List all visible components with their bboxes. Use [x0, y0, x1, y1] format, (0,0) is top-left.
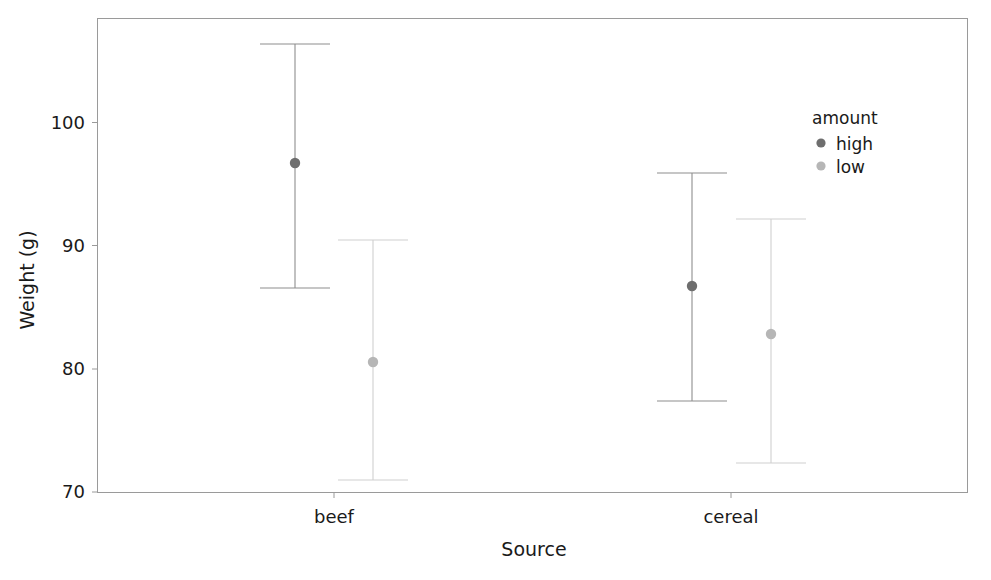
chart-container: 100 90 80 70 Weight (g) beef cereal Sour… — [0, 0, 991, 580]
x-tick-label-cereal: cereal — [703, 506, 758, 527]
legend-marker-low-icon — [816, 161, 825, 170]
legend: amount high low — [812, 108, 878, 177]
errorbar-cereal-low — [736, 219, 806, 463]
legend-item-high[interactable]: high — [816, 134, 873, 154]
data-point-beef-low[interactable] — [368, 357, 378, 367]
y-tick-label-70: 70 — [62, 481, 85, 502]
y-tick-label-90: 90 — [62, 235, 85, 256]
legend-item-low[interactable]: low — [816, 157, 865, 177]
series-high — [260, 44, 727, 401]
legend-marker-high-icon — [816, 138, 825, 147]
y-tick-label-80: 80 — [62, 358, 85, 379]
y-tick-label-100: 100 — [51, 112, 85, 133]
errorbar-cereal-high — [657, 173, 727, 401]
legend-label-high: high — [836, 134, 873, 154]
data-point-cereal-high[interactable] — [687, 281, 697, 291]
x-tick-label-beef: beef — [314, 506, 355, 527]
x-axis-title: Source — [501, 538, 566, 560]
errorbar-beef-low — [338, 240, 408, 480]
series-low — [338, 219, 806, 480]
legend-title: amount — [812, 108, 878, 128]
plot-frame — [98, 19, 968, 493]
errorbar-beef-high — [260, 44, 330, 288]
data-point-beef-high[interactable] — [290, 158, 300, 168]
chart-plot-area: 100 90 80 70 Weight (g) beef cereal Sour… — [0, 0, 991, 580]
data-point-cereal-low[interactable] — [766, 329, 776, 339]
x-axis-ticks — [334, 493, 731, 499]
legend-label-low: low — [836, 157, 865, 177]
y-axis-ticks — [92, 123, 97, 493]
y-axis-title: Weight (g) — [16, 230, 38, 329]
